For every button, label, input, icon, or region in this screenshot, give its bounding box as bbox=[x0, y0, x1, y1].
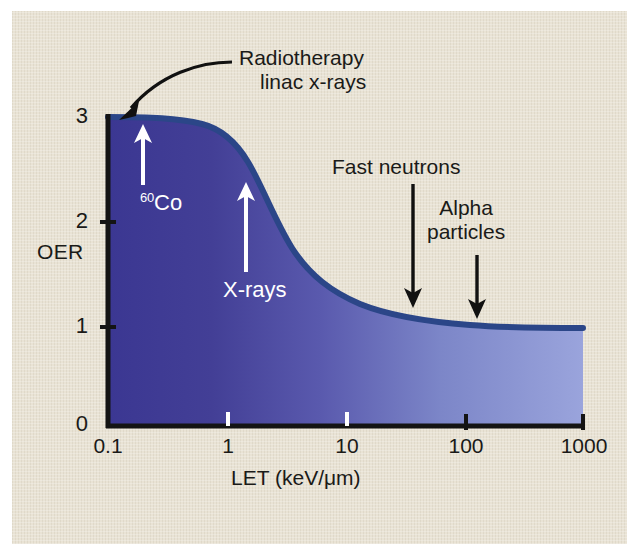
annotation-cobalt-60: 60Co bbox=[140, 190, 182, 216]
alpha-line-1: Alpha bbox=[439, 196, 493, 219]
annotation-xrays: X-rays bbox=[223, 277, 287, 303]
figure-root: 3 2 1 0 0.1 1 10 100 1000 OER LET (keV/μ… bbox=[0, 0, 639, 555]
x-tick-label-0.1: 0.1 bbox=[78, 434, 138, 458]
annotation-radiotherapy: Radiotherapylinac x-rays bbox=[239, 46, 366, 95]
x-axis-title: LET (keV/μm) bbox=[231, 466, 361, 490]
cobalt-symbol: Co bbox=[154, 190, 182, 215]
alpha-line-2: particles bbox=[427, 220, 505, 244]
y-tick-label-2: 2 bbox=[62, 208, 88, 234]
annotation-fast-neutrons: Fast neutrons bbox=[332, 155, 460, 179]
annotation-alpha-particles: Alphaparticles bbox=[427, 196, 505, 245]
x-tick-label-1: 1 bbox=[198, 434, 258, 458]
y-tick-label-3: 3 bbox=[62, 103, 88, 129]
radiotherapy-line-1: Radiotherapy bbox=[239, 46, 364, 69]
y-tick-label-1: 1 bbox=[62, 313, 88, 339]
x-tick-label-100: 100 bbox=[436, 434, 496, 458]
radiotherapy-arrow bbox=[131, 62, 232, 108]
x-tick-label-1000: 1000 bbox=[551, 434, 617, 458]
y-axis-title: OER bbox=[37, 240, 83, 264]
radiotherapy-line-2: linac x-rays bbox=[239, 70, 366, 94]
cobalt-superscript: 60 bbox=[140, 190, 154, 205]
x-tick-label-10: 10 bbox=[317, 434, 377, 458]
